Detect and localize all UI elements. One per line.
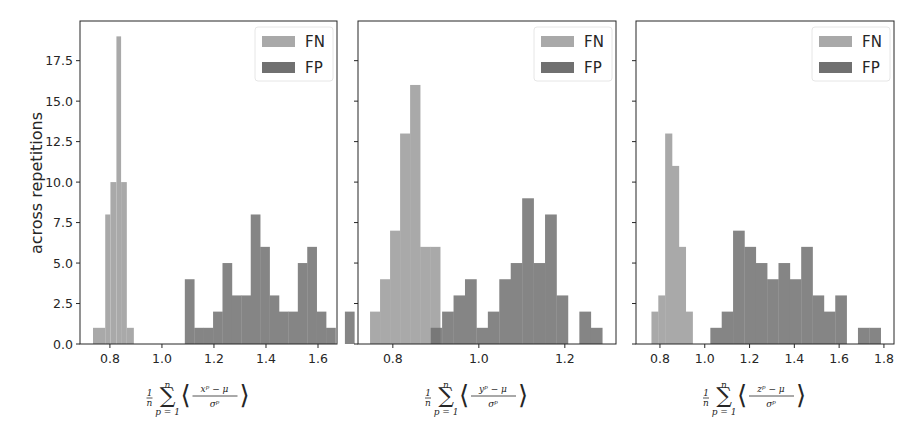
histogram-bar: [813, 295, 825, 344]
histogram-bar: [420, 247, 430, 344]
y-tick-label: 15.0: [45, 94, 73, 109]
x-axis-label: 1nn∑p = 1⟨xᵖ − μσᵖ⟩: [147, 380, 250, 417]
histogram-bar: [222, 263, 232, 344]
panel-z: 0.81.01.21.41.61.8FNFP1nn∑p = 1⟨zᵖ − μσᵖ…: [632, 21, 894, 417]
x-tick-label: 0.8: [383, 351, 403, 366]
svg-text:σᵖ: σᵖ: [766, 399, 776, 409]
legend-label-fp: FP: [862, 59, 880, 77]
figure: across repetitions 0.81.01.21.41.60.02.5…: [0, 0, 923, 442]
legend-swatch-fn: [819, 36, 852, 47]
x-tick-label: 1.0: [152, 351, 172, 366]
histogram-bar: [511, 263, 523, 344]
svg-text:1: 1: [703, 388, 709, 398]
x-tick-label: 0.8: [100, 351, 120, 366]
histogram-bar: [869, 328, 881, 344]
x-tick-label: 0.8: [650, 351, 670, 366]
svg-text:σᵖ: σᵖ: [210, 399, 220, 409]
x-tick-label: 1.6: [829, 351, 849, 366]
histogram-bar: [733, 231, 745, 344]
histogram-bar: [499, 279, 511, 344]
legend-label-fp: FP: [305, 59, 323, 77]
y-tick-label: 7.5: [53, 215, 73, 230]
histogram-bar: [213, 312, 223, 344]
histogram-bar: [545, 214, 557, 344]
svg-text:1: 1: [425, 388, 431, 398]
y-tick-label: 12.5: [45, 134, 73, 149]
histogram-bar: [651, 312, 658, 344]
histogram-bar: [110, 182, 116, 344]
svg-text:xᵖ − μ: xᵖ − μ: [201, 384, 229, 394]
x-axis-label: 1nn∑p = 1⟨zᵖ − μσᵖ⟩: [703, 380, 806, 417]
histogram-bar: [835, 295, 847, 344]
histogram-bar: [390, 231, 400, 344]
histogram-bar: [194, 328, 204, 344]
histogram-bar: [824, 312, 836, 344]
histogram-bar: [251, 214, 261, 344]
svg-text:∑: ∑: [438, 383, 454, 408]
histogram-bar: [116, 36, 121, 344]
histogram-bar: [744, 247, 756, 344]
x-tick-label: 1.2: [740, 351, 760, 366]
y-tick-label: 5.0: [53, 256, 73, 271]
svg-text:p = 1: p = 1: [155, 407, 180, 417]
x-tick-label: 1.4: [784, 351, 804, 366]
panel-x: 0.81.01.21.41.60.02.55.07.510.012.515.01…: [45, 21, 354, 417]
svg-text:⟨: ⟨: [737, 380, 747, 410]
histogram-bar: [679, 247, 686, 344]
svg-text:⟩: ⟩: [796, 380, 806, 410]
x-axis-label: 1nn∑p = 1⟨yᵖ − μσᵖ⟩: [425, 380, 528, 417]
histogram-bar: [232, 295, 242, 344]
y-axis-label: across repetitions: [27, 112, 46, 254]
histogram-bar: [522, 198, 534, 344]
histogram-bar: [326, 328, 336, 344]
panel-y: 0.81.01.2FNFP1nn∑p = 1⟨yᵖ − μσᵖ⟩: [354, 21, 616, 417]
svg-text:∑: ∑: [716, 383, 732, 408]
y-tick-label: 0.0: [53, 337, 73, 352]
histogram-bar: [442, 312, 454, 344]
svg-text:∑: ∑: [160, 383, 176, 408]
histogram-bar: [410, 85, 420, 344]
svg-text:⟩: ⟩: [240, 380, 250, 410]
histogram-bar: [260, 247, 270, 344]
histogram-bar: [579, 312, 591, 344]
histogram-bar: [591, 328, 603, 344]
svg-text:n: n: [703, 398, 709, 408]
legend-label-fn: FN: [862, 33, 882, 51]
histogram-bar: [710, 328, 722, 344]
histogram-bar: [767, 279, 779, 344]
histogram-bar: [105, 214, 110, 344]
histogram-bar: [534, 263, 546, 344]
histogram-bar: [127, 328, 134, 344]
x-tick-label: 1.4: [256, 351, 276, 366]
legend-swatch-fp: [262, 62, 295, 73]
histogram-bar: [279, 312, 289, 344]
histogram-bar: [658, 295, 665, 344]
histogram-bar: [665, 134, 672, 344]
y-tick-label: 17.5: [45, 53, 73, 68]
svg-text:⟨: ⟨: [181, 380, 191, 410]
histogram-bar: [204, 328, 214, 344]
histogram-bar: [380, 279, 390, 344]
histogram-bar: [722, 312, 734, 344]
histogram-bar: [686, 312, 693, 344]
x-tick-label: 1.0: [469, 351, 489, 366]
legend-label-fn: FN: [305, 33, 325, 51]
svg-text:p = 1: p = 1: [434, 407, 459, 417]
histogram-bar: [454, 295, 466, 344]
x-tick-label: 1.2: [555, 351, 575, 366]
histogram-bar: [756, 263, 768, 344]
histogram-bar: [465, 279, 477, 344]
svg-text:⟨: ⟨: [459, 380, 469, 410]
legend-swatch-fn: [262, 36, 295, 47]
legend: FNFP: [812, 27, 890, 81]
histogram-bar: [317, 312, 327, 344]
legend-swatch-fp: [541, 62, 574, 73]
histogram-bar: [121, 182, 127, 344]
histogram-bar: [672, 166, 679, 344]
y-tick-label: 2.5: [53, 296, 73, 311]
histogram-bar: [790, 279, 802, 344]
x-tick-label: 1.8: [874, 351, 894, 366]
svg-text:σᵖ: σᵖ: [488, 399, 498, 409]
histogram-bar: [185, 279, 195, 344]
svg-text:n: n: [147, 398, 153, 408]
